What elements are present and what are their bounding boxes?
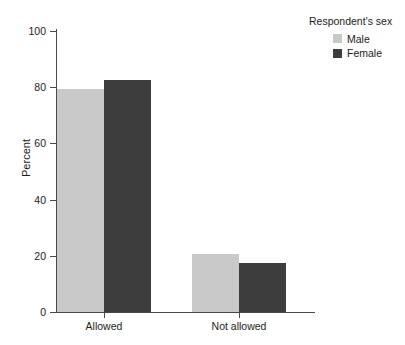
x-tick [104, 312, 105, 318]
legend-swatch-icon [333, 49, 342, 58]
bar-chart: Percent 020406080100 AllowedNot allowed … [0, 0, 405, 345]
y-tick-label: 80 [16, 82, 46, 93]
y-tick-label: 40 [16, 195, 46, 206]
y-tick-label: 20 [16, 251, 46, 262]
x-tick-label: Not allowed [179, 321, 299, 332]
y-tick-label: 100 [16, 26, 46, 37]
legend-item-label: Male [347, 34, 370, 45]
bar [57, 89, 104, 312]
legend-title: Respondent's sex [309, 16, 405, 27]
y-tick [50, 200, 56, 201]
legend: Respondent's sex MaleFemale [309, 16, 405, 63]
legend-item-label: Female [347, 48, 382, 59]
y-tick [50, 143, 56, 144]
y-tick-label: 0 [16, 307, 46, 318]
y-tick [50, 256, 56, 257]
x-axis-line [56, 312, 315, 313]
y-tick [50, 31, 56, 32]
bar [192, 254, 239, 312]
legend-item: Male [333, 34, 405, 45]
bar [104, 80, 151, 312]
legend-swatch-icon [333, 34, 342, 43]
bar [239, 263, 286, 312]
y-axis-title: Percent [20, 118, 32, 198]
y-tick [50, 87, 56, 88]
legend-item: Female [333, 48, 405, 59]
x-tick-label: Allowed [44, 321, 164, 332]
legend-entries: MaleFemale [309, 34, 405, 59]
x-tick [239, 312, 240, 318]
y-tick-label: 60 [16, 138, 46, 149]
y-tick [50, 312, 56, 313]
